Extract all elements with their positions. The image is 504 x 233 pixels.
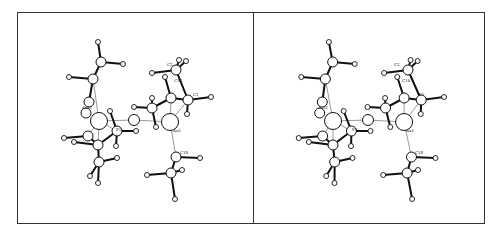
carbon-atom <box>328 57 338 67</box>
carbon-atom <box>88 74 98 84</box>
hydrogen-atom <box>145 173 150 178</box>
hydrogen-atom <box>115 156 120 161</box>
hydrogen-atom <box>324 174 329 179</box>
hydrogen-atom <box>134 129 139 134</box>
hydrogen-atom <box>185 112 190 117</box>
hydrogen-atom <box>150 96 155 101</box>
hydrogen-atom <box>415 59 420 64</box>
carbon-atom <box>320 74 330 84</box>
atom-label: F1 <box>116 127 121 132</box>
hydrogen-atom <box>332 181 337 186</box>
hydrogen-atom <box>209 95 214 100</box>
hydrogen-atom <box>350 156 355 161</box>
atom-label: F1 <box>352 127 357 132</box>
atom-label: Au1 <box>405 128 414 133</box>
hydrogen-atom <box>352 62 357 67</box>
atom-label: Au1I <box>81 105 92 110</box>
atom-label: C18 <box>180 150 189 155</box>
gold-atom <box>91 113 108 130</box>
hydrogen-atom <box>108 109 113 114</box>
hydrogen-atom <box>442 95 447 100</box>
hydrogen-atom <box>326 40 331 45</box>
carbon-atom <box>93 140 103 150</box>
hydrogen-atom <box>416 168 421 173</box>
hydrogen-atom <box>381 173 386 178</box>
carbon-atom <box>96 57 106 67</box>
hydrogen-atom <box>132 105 137 110</box>
carbon-atom <box>330 157 340 167</box>
hydrogen-atom <box>173 197 178 202</box>
atom-label: C18 <box>415 150 424 155</box>
carbon-atom <box>402 168 412 178</box>
hydrogen-atom <box>395 75 400 80</box>
molecule-stereo-pair: C2C14C1Au1IF1Au1C18 C2C14F1Au1IF1Au1C18 <box>0 0 504 233</box>
hydrogen-atom <box>306 140 311 145</box>
hydrogen-atom <box>388 125 393 130</box>
hydrogen-atom <box>154 125 159 130</box>
hydrogen-atom <box>72 140 77 145</box>
hydrogen-atom <box>433 156 438 161</box>
hydrogen-atom <box>198 156 203 161</box>
carbon-atom <box>147 103 157 113</box>
hydrogen-atom <box>88 174 93 179</box>
hydrogen-atom <box>408 58 413 63</box>
hydrogen-atom <box>410 197 415 202</box>
atom-label: C14 <box>402 78 411 83</box>
hydrogen-atom <box>365 105 370 110</box>
hydrogen-atom <box>296 136 301 141</box>
hydrogen-atom <box>121 62 126 67</box>
carbon-atom <box>83 131 93 141</box>
atom-label: C1 <box>193 92 199 97</box>
hydrogen-atom <box>299 75 304 80</box>
carbon-atom <box>166 93 176 103</box>
atom-label: C2 <box>394 62 400 67</box>
atom-label: C14 <box>174 78 183 83</box>
carbon-atom <box>318 131 328 141</box>
hydrogen-atom <box>418 112 423 117</box>
right-molecule-view: C2C14F1Au1IF1Au1C18 <box>296 40 446 202</box>
fluorine-atom <box>363 115 374 126</box>
hydrogen-atom <box>349 144 354 149</box>
carbon-atom <box>399 93 409 103</box>
hydrogen-atom <box>114 144 119 149</box>
hydrogen-atom <box>184 59 189 64</box>
hydrogen-atom <box>62 136 67 141</box>
hydrogen-atom <box>180 168 185 173</box>
atom-label: F1 <box>419 92 424 97</box>
carbon-atom <box>166 168 176 178</box>
atom-label: Au1 <box>172 128 181 133</box>
left-molecule-view: C2C14C1Au1IF1Au1C18 <box>62 40 214 202</box>
fluorine-atom <box>129 115 140 126</box>
gold-atom <box>325 113 342 130</box>
atom-label: C2 <box>167 62 173 67</box>
atom-label: Au1I <box>317 105 328 110</box>
hydrogen-atom <box>150 71 155 76</box>
hydrogen-atom <box>96 181 101 186</box>
hydrogen-atom <box>67 75 72 80</box>
carbon-atom <box>403 65 413 75</box>
hydrogen-atom <box>163 75 168 80</box>
carbon-atom <box>183 95 193 105</box>
hydrogen-atom <box>341 109 346 114</box>
hydrogen-atom <box>383 96 388 101</box>
carbon-atom <box>328 140 338 150</box>
carbon-atom <box>94 157 104 167</box>
hydrogen-atom <box>177 58 182 63</box>
carbon-atom <box>381 103 391 113</box>
hydrogen-atom <box>382 71 387 76</box>
hydrogen-atom <box>96 40 101 45</box>
hydrogen-atom <box>368 129 373 134</box>
